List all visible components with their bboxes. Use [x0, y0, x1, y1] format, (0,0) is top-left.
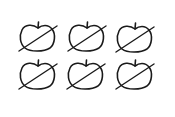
crossed-out-apple-icon — [65, 58, 107, 92]
crossed-out-apple-icon — [66, 20, 108, 54]
crossed-out-apple-icon — [17, 58, 59, 92]
crossed-out-apple-icon — [114, 58, 156, 92]
crossed-out-apple-icon — [114, 21, 156, 55]
crossed-out-apple-icon — [17, 20, 59, 54]
